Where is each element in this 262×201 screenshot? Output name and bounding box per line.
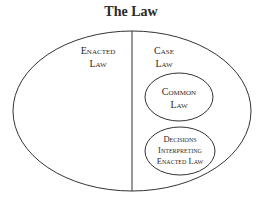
case-law-line1: Case <box>146 44 182 57</box>
decisions-line1: Decisions <box>145 134 215 145</box>
case-law-line2: Law <box>146 57 182 70</box>
common-law-label: Common Law <box>149 85 209 111</box>
enacted-law-label: Enacted Law <box>68 44 128 70</box>
enacted-law-line1: Enacted <box>68 44 128 57</box>
decisions-line2: Interpreting <box>145 145 215 156</box>
common-law-line2: Law <box>149 98 209 111</box>
decisions-line3: Enacted Law <box>145 156 215 167</box>
decisions-label: Decisions Interpreting Enacted Law <box>145 134 215 167</box>
case-law-label: Case Law <box>146 44 182 70</box>
enacted-law-line2: Law <box>68 57 128 70</box>
venn-diagram <box>0 0 262 201</box>
common-law-line1: Common <box>149 85 209 98</box>
